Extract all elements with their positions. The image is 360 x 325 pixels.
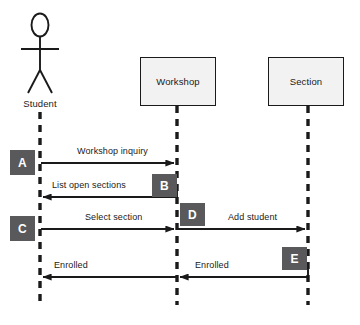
message-label-enrolled-section-workshop: Enrolled	[195, 260, 229, 270]
participant-label-workshop: Workshop	[156, 76, 199, 87]
participant-box-section[interactable]: Section	[268, 57, 344, 106]
message-label-list-open-sections: List open sections	[52, 180, 126, 190]
lifelines	[40, 106, 308, 305]
stick-figure-actor-icon	[21, 14, 59, 94]
step-badge-c[interactable]: C	[10, 216, 35, 241]
step-badge-a[interactable]: A	[10, 150, 35, 175]
participant-label-section: Section	[290, 76, 322, 87]
message-label-enrolled-workshop-student: Enrolled	[54, 260, 88, 270]
step-badge-e[interactable]: E	[282, 247, 307, 270]
message-label-select-section: Select section	[85, 212, 142, 222]
sequence-diagram-canvas: Student Workshop Section Workshop inquir…	[0, 0, 360, 325]
participant-box-workshop[interactable]: Workshop	[140, 57, 216, 106]
actor-label-student: Student	[4, 98, 76, 109]
step-badge-d[interactable]: D	[180, 203, 205, 226]
step-badge-b[interactable]: B	[152, 174, 177, 197]
message-label-add-student: Add student	[228, 212, 277, 222]
diagram-vector-layer	[0, 0, 360, 325]
message-label-workshop-inquiry: Workshop inquiry	[77, 146, 148, 156]
